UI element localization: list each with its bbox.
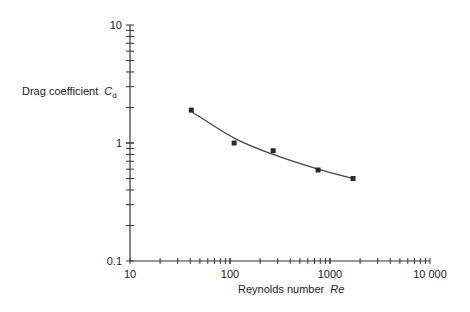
x-tick-label: 1000 [318,268,342,280]
y-axis-subscript: d [112,91,116,100]
x-axis-label-text: Reynolds number [238,283,324,295]
data-points [189,108,356,181]
x-tick-label: 100 [221,268,239,280]
x-tick-label: 10 [124,268,136,280]
chart-plot-area: 10100100010 0000.1110 [0,0,470,312]
x-axis-label: Reynolds number Re [238,283,344,295]
fit-curve-line [191,111,353,178]
tick-labels: 10100100010 0000.1110 [107,19,447,280]
y-tick-label: 1 [116,137,122,149]
data-point-marker [351,176,356,181]
data-point-marker [316,168,321,173]
data-point-marker [271,148,276,153]
x-axis-symbol: Re [330,283,344,295]
data-point-marker [189,108,194,113]
y-tick-label: 10 [110,19,122,31]
data-point-marker [232,141,237,146]
x-tick-label: 10 000 [413,268,447,280]
y-axis-label-text: Drag coefficient [22,85,98,97]
y-tick-label: 0.1 [107,255,122,267]
fit-curve [191,111,353,178]
axes [126,25,430,264]
y-axis-label: Drag coefficient Cd [22,85,117,100]
